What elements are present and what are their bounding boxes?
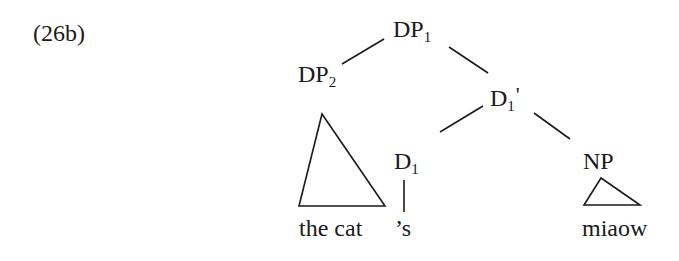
node-dp1-index: 1 [424, 29, 432, 45]
node-dp2: DP2 [298, 62, 336, 86]
branch-dp1-dp2 [342, 39, 384, 64]
branch-dp1-d1bar [449, 47, 488, 73]
node-d1: D1 [394, 149, 419, 173]
node-d1-bar: D1' [490, 84, 520, 110]
node-dp2-category: DP [298, 61, 329, 87]
node-d1-bar-prime: ' [516, 82, 520, 107]
node-dp1: DP1 [393, 17, 431, 41]
syntax-tree-diagram: (26b) DP1 DP2 D1' D1 NP the cat ’s miaow [0, 0, 679, 261]
node-np-category: NP [583, 148, 614, 174]
node-dp2-index: 2 [329, 74, 337, 90]
node-d1-bar-category: D [490, 85, 507, 111]
triangle-dp2 [299, 114, 385, 206]
node-np: NP [583, 149, 614, 173]
branch-d1bar-np [534, 113, 570, 139]
node-d1-bar-index: 1 [507, 98, 515, 114]
triangle-np [584, 178, 640, 205]
node-dp1-category: DP [393, 16, 424, 42]
leaf-miaow: miaow [582, 216, 647, 240]
leaf-the-cat: the cat [299, 216, 362, 240]
leaf-possessive-s: ’s [395, 216, 411, 240]
branch-d1bar-d1 [440, 106, 483, 132]
node-d1-category: D [394, 148, 411, 174]
node-d1-index: 1 [411, 161, 419, 177]
